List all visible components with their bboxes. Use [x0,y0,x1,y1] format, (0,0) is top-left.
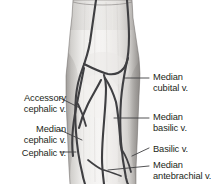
anatomy-figure: Accessory cephalic v. Median cephalic v.… [0,0,211,184]
label-median-cephalic-vein: Median cephalic v. [4,124,66,145]
label-median-antebrachial-vein: Median antebrachial v. [153,160,211,181]
label-basilic-vein: Basilic v. [153,144,211,155]
label-cephalic-line1: Cephalic v. [4,148,66,159]
label-median-antebrachial-line2: antebrachial v. [153,171,211,182]
label-basilic-line1: Basilic v. [153,144,211,155]
label-median-cephalic-line2: cephalic v. [4,135,66,146]
label-accessory-cephalic-vein: Accessory cephalic v. [4,93,66,114]
label-accessory-cephalic-line2: cephalic v. [4,104,66,115]
label-cephalic-vein: Cephalic v. [4,148,66,159]
label-median-basilic-line2: basilic v. [153,123,211,134]
label-median-cubital-line1: Median [153,72,211,83]
label-median-cubital-line2: cubital v. [153,83,211,94]
label-median-cephalic-line1: Median [4,124,66,135]
label-median-basilic-line1: Median [153,112,211,123]
label-median-cubital-vein: Median cubital v. [153,72,211,93]
label-median-basilic-vein: Median basilic v. [153,112,211,133]
label-accessory-cephalic-line1: Accessory [4,93,66,104]
label-median-antebrachial-line1: Median [153,160,211,171]
